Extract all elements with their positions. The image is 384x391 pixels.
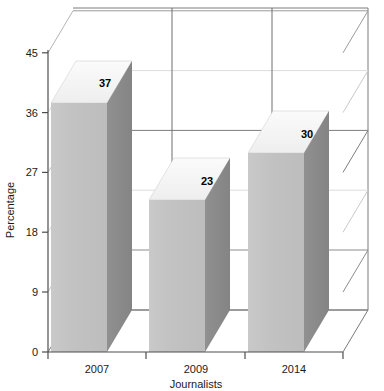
bar-value-label: 30 <box>301 128 313 140</box>
bar-front-face <box>51 103 107 352</box>
y-tick-label: 27 <box>26 166 38 178</box>
y-tick-labels: 45 36 27 18 9 0 <box>26 47 38 358</box>
bar-value-label: 23 <box>201 175 213 187</box>
bar-front-face <box>149 200 205 352</box>
x-axis-title: Journalists <box>170 378 223 390</box>
y-tick-label: 45 <box>26 47 38 59</box>
y-tick-label: 9 <box>32 286 38 298</box>
bar-front-face <box>248 153 304 352</box>
bar-2007[interactable] <box>51 61 132 352</box>
y-axis <box>42 50 48 352</box>
x-tick-label: 2007 <box>85 363 109 375</box>
x-tick-labels: 2007 2009 2014 <box>85 363 306 375</box>
bar-2009[interactable] <box>149 158 230 352</box>
y-tick-label: 36 <box>26 107 38 119</box>
x-tick-label: 2014 <box>282 363 306 375</box>
x-tick-label: 2009 <box>184 363 208 375</box>
bar-2014[interactable] <box>248 111 329 352</box>
bar-side-face <box>107 61 132 352</box>
bar-chart-3d: 45 36 27 18 9 0 Percentage 37 23 <box>0 0 384 391</box>
bar-side-face <box>304 111 329 352</box>
chart-canvas: 45 36 27 18 9 0 Percentage 37 23 <box>0 0 384 391</box>
x-axis <box>48 352 343 359</box>
y-axis-title: Percentage <box>4 182 16 238</box>
y-tick-label: 0 <box>32 346 38 358</box>
y-tick-label: 18 <box>26 226 38 238</box>
bar-value-label: 37 <box>99 77 111 89</box>
